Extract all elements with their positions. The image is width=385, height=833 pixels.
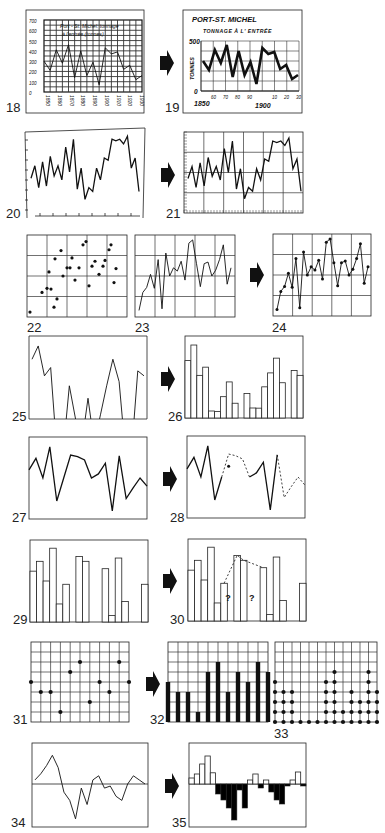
svg-text:1930: 1930	[139, 95, 145, 106]
figure-canvas: 7006005004003002001000185018601870188018…	[0, 0, 385, 833]
chart-18: 7006005004003002001000185018601870188018…	[26, 10, 145, 113]
panel-label-25: 25	[12, 409, 26, 424]
svg-text:80: 80	[235, 95, 241, 100]
panel-label-18: 18	[6, 100, 20, 115]
svg-text:500: 500	[29, 40, 37, 45]
svg-text:20: 20	[283, 95, 290, 100]
svg-text:1850: 1850	[194, 100, 210, 107]
chart-32	[166, 642, 270, 722]
right-arrow-icon	[160, 50, 174, 76]
chart-23	[135, 235, 235, 317]
svg-text:1870: 1870	[69, 95, 75, 106]
svg-text:1860: 1860	[57, 95, 63, 106]
panel-label-35: 35	[172, 815, 186, 830]
panel-label-29: 29	[13, 612, 27, 627]
chart-29	[30, 540, 148, 622]
svg-text:300: 300	[29, 60, 37, 65]
svg-text:700: 700	[29, 19, 37, 24]
chart-20	[25, 128, 145, 218]
panel-label-34: 34	[11, 815, 25, 830]
svg-text:400: 400	[29, 50, 37, 55]
svg-text:30: 30	[296, 95, 302, 100]
right-arrow-icon	[250, 262, 264, 288]
svg-text:10: 10	[272, 95, 278, 100]
svg-text:600: 600	[29, 29, 37, 34]
svg-text:à l'entrée (tonnes): à l'entrée (tonnes)	[62, 31, 104, 37]
chart-24	[273, 234, 371, 316]
right-arrow-icon	[146, 671, 160, 697]
svg-text:1850: 1850	[45, 95, 51, 106]
panel-label-20: 20	[6, 206, 20, 221]
right-arrow-icon	[163, 466, 177, 492]
panel-label-30: 30	[170, 612, 184, 627]
panel-label-31: 31	[13, 712, 27, 727]
svg-text:0: 0	[194, 88, 198, 95]
svg-text:TONNAGE À L' ENTRÉE: TONNAGE À L' ENTRÉE	[203, 27, 272, 34]
panel-label-21: 21	[166, 206, 180, 221]
svg-text:1890: 1890	[92, 95, 98, 106]
chart-22	[27, 235, 127, 317]
right-arrow-icon	[165, 773, 179, 799]
chart-31	[29, 642, 131, 722]
svg-text:90: 90	[247, 95, 253, 100]
svg-text:500: 500	[189, 38, 200, 45]
chart-28	[187, 436, 305, 518]
panel-label-24: 24	[272, 320, 286, 335]
panel-label-27: 27	[12, 510, 26, 525]
chart-26	[185, 336, 303, 418]
panel-label-26: 26	[168, 409, 182, 424]
chart-30: ??	[188, 539, 306, 621]
svg-text:70: 70	[223, 95, 229, 100]
chart-25	[29, 336, 147, 452]
chart-21	[184, 132, 303, 213]
chart-33	[273, 642, 379, 724]
chart-19: PORT-ST. MICHELTONNAGE À L' ENTRÉE5000TO…	[183, 10, 302, 113]
right-arrow-icon	[161, 366, 175, 392]
svg-text:0: 0	[29, 91, 32, 96]
svg-text:1910: 1910	[116, 95, 122, 106]
panel-label-32: 32	[150, 712, 164, 727]
right-arrow-icon	[163, 568, 177, 594]
panel-label-23: 23	[135, 320, 149, 335]
chart-27	[29, 437, 147, 519]
panel-label-33: 33	[274, 726, 288, 741]
svg-text:PORT-ST. MICHEL: PORT-ST. MICHEL	[192, 15, 257, 24]
svg-text:100: 100	[29, 81, 37, 86]
svg-text:200: 200	[28, 70, 37, 75]
svg-text:1880: 1880	[80, 95, 86, 106]
svg-text:?: ?	[249, 593, 255, 603]
svg-text:Port - St. Michel: tonnage: Port - St. Michel: tonnage	[60, 23, 119, 29]
panel-label-22: 22	[27, 320, 41, 335]
svg-text:1900: 1900	[255, 102, 271, 109]
svg-text:?: ?	[225, 593, 231, 603]
right-arrow-icon	[161, 162, 175, 188]
charts-svg: 7006005004003002001000185018601870188018…	[0, 0, 385, 833]
panel-label-19: 19	[165, 100, 179, 115]
chart-34	[32, 743, 148, 827]
svg-text:1920: 1920	[127, 95, 133, 106]
svg-text:60: 60	[211, 95, 217, 100]
chart-35	[189, 743, 306, 827]
svg-text:1900: 1900	[104, 95, 110, 106]
panel-label-28: 28	[170, 510, 184, 525]
svg-text:TONNES: TONNES	[189, 57, 195, 80]
